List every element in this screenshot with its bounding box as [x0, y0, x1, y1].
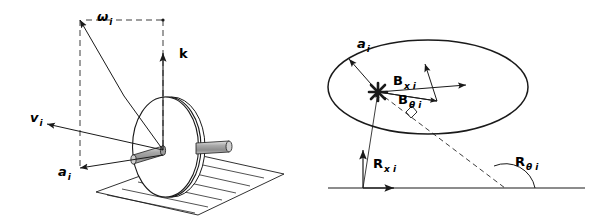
a-i-label-right: ai	[357, 36, 371, 54]
b-theta-i-label: Bθ i	[398, 92, 422, 110]
figure-root: ωi k vi ai ai Bx i Bθ i Rx i Rθ i	[0, 0, 600, 220]
omega-i-label: ωi	[97, 9, 113, 27]
label-layer: ωi k vi ai ai Bx i Bθ i Rx i Rθ i	[0, 0, 600, 220]
r-theta-i-label: Rθ i	[515, 154, 539, 172]
k-label: k	[179, 46, 188, 61]
a-i-label: ai	[58, 164, 72, 182]
r-x-i-label: Rx i	[373, 156, 397, 174]
v-i-label: vi	[30, 110, 43, 128]
b-x-i-label: Bx i	[393, 73, 417, 91]
